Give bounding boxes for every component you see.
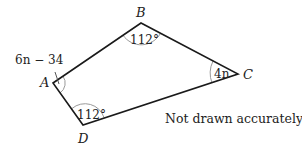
vertex-label-a: A [39,75,49,90]
angle-label-b: 112° [130,33,159,47]
quadrilateral-diagram: A B C D 112° 112° 4n 6n − 34 Not drawn a… [0,0,302,150]
angle-label-a: 6n − 34 [15,53,64,67]
angle-label-d: 112° [77,108,106,122]
not-drawn-accurately-note: Not drawn accurately [165,111,302,126]
angle-label-c: 4n [214,67,230,81]
vertex-label-d: D [77,131,89,146]
angle-arc-c [210,61,213,83]
angle-arc-a [60,76,65,93]
vertex-label-b: B [135,5,146,20]
vertex-label-c: C [243,67,253,82]
angle-a-pointer [55,72,59,84]
